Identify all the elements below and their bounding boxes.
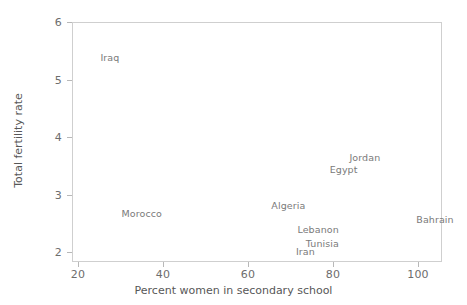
data-point-label: Lebanon: [297, 224, 338, 235]
y-tick-label-6: 6: [44, 16, 62, 29]
y-tick-label-5: 5: [44, 74, 62, 87]
data-point-label: Iran: [296, 245, 315, 256]
y-tick-mark: [67, 195, 72, 196]
x-axis-title: Percent women in secondary school: [0, 284, 467, 297]
x-tick-mark: [78, 262, 79, 267]
x-tick-mark: [418, 262, 419, 267]
data-point-label: Algeria: [271, 199, 305, 210]
y-tick-label-3: 3: [44, 189, 62, 202]
y-tick-mark: [67, 22, 72, 23]
y-tick-label-4: 4: [44, 131, 62, 144]
x-tick-label-60: 60: [228, 268, 268, 281]
x-tick-label-20: 20: [58, 268, 98, 281]
data-point-label: Morocco: [122, 207, 162, 218]
y-tick-mark: [67, 252, 72, 253]
y-tick-label-2: 2: [44, 246, 62, 259]
x-tick-mark: [248, 262, 249, 267]
y-axis-title: Total fertility rate: [12, 61, 25, 221]
x-tick-label-40: 40: [143, 268, 183, 281]
x-tick-label-100: 100: [398, 268, 438, 281]
y-tick-mark: [67, 137, 72, 138]
data-point-label: Egypt: [330, 164, 358, 175]
x-tick-mark: [333, 262, 334, 267]
x-tick-label-80: 80: [313, 268, 353, 281]
data-point-label: Iraq: [100, 51, 119, 62]
x-tick-mark: [163, 262, 164, 267]
data-point-label: Bahrain: [416, 214, 453, 225]
scatter-plot-figure: 2 3 4 5 6 20 40 60 80 100 Percent women …: [0, 0, 467, 305]
y-tick-mark: [67, 80, 72, 81]
data-point-label: Jordan: [349, 152, 380, 163]
plot-area: [72, 22, 442, 262]
